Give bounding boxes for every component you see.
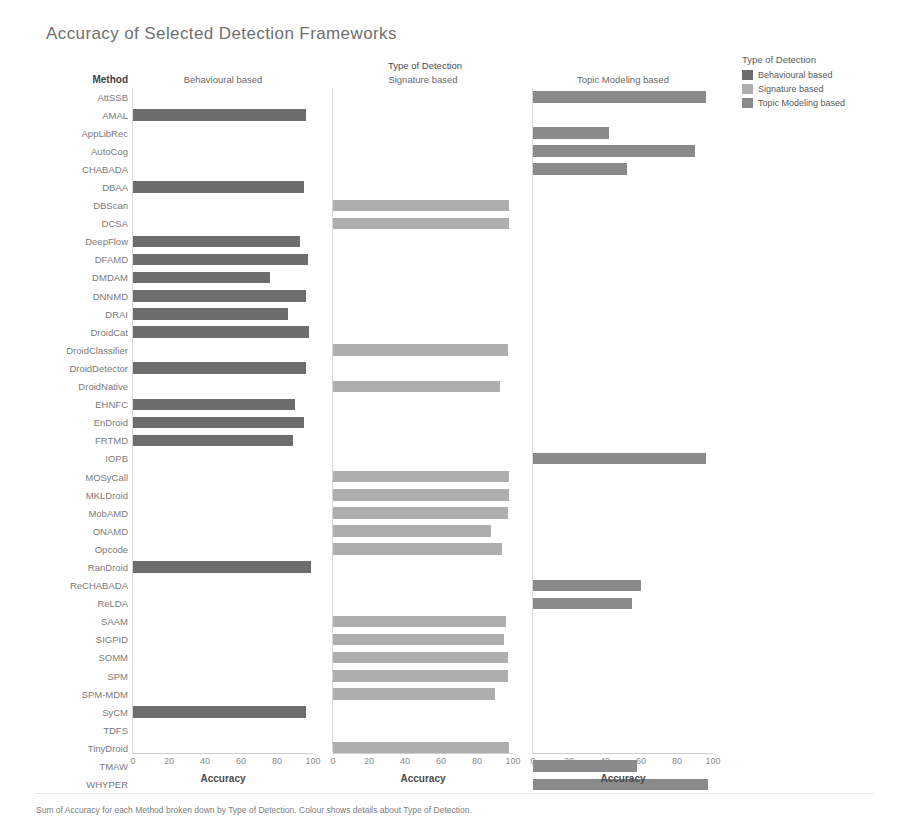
panel-1-cell xyxy=(333,649,513,667)
panel-1-cell xyxy=(333,595,513,613)
bar-dcsa-1[interactable] xyxy=(333,218,509,230)
panel-2-cell xyxy=(533,142,713,160)
panel-0-cell xyxy=(133,359,313,377)
axis-tick-40: 40 xyxy=(400,756,410,766)
bar-mkldroid-1[interactable] xyxy=(333,489,509,501)
chart-row: MOSyCall xyxy=(0,468,730,486)
chart-row: DroidCat xyxy=(0,323,730,341)
panel-2-cell xyxy=(533,703,713,721)
panel-1-cell xyxy=(333,269,513,287)
panel-2-cell xyxy=(533,305,713,323)
axis-title-signature: Accuracy xyxy=(333,773,513,784)
bar-droidclassifier-1[interactable] xyxy=(333,344,508,356)
bar-drai-0[interactable] xyxy=(133,308,288,320)
bar-endroid-0[interactable] xyxy=(133,417,304,429)
bar-deepflow-0[interactable] xyxy=(133,236,300,248)
column-group-title: Type of Detection xyxy=(325,60,525,71)
bar-droiddetector-0[interactable] xyxy=(133,362,306,374)
bar-rechabada-2[interactable] xyxy=(533,580,641,592)
row-label-sigpid: SIGPID xyxy=(20,631,128,649)
axis-line xyxy=(133,753,313,754)
bar-onamd-1[interactable] xyxy=(333,525,491,537)
bar-iopb-2[interactable] xyxy=(533,453,706,465)
axis-tick-100: 100 xyxy=(705,756,720,766)
chart-row: ReLDA xyxy=(0,595,730,613)
bar-chabada-2[interactable] xyxy=(533,163,627,175)
bar-mobamd-1[interactable] xyxy=(333,507,508,519)
panel-0-cell xyxy=(133,305,313,323)
panel-0-cell xyxy=(133,486,313,504)
bar-sycm-0[interactable] xyxy=(133,706,306,718)
bar-mosycall-1[interactable] xyxy=(333,471,509,483)
chart-row: MKLDroid xyxy=(0,486,730,504)
panel-0-cell xyxy=(133,577,313,595)
bar-dmdam-0[interactable] xyxy=(133,272,270,284)
bar-dfamd-0[interactable] xyxy=(133,254,308,266)
panel-0-cell xyxy=(133,450,313,468)
bar-somm-1[interactable] xyxy=(333,652,508,664)
chart-row: DNNMD xyxy=(0,287,730,305)
panel-1-cell xyxy=(333,378,513,396)
row-label-droidnative: DroidNative xyxy=(20,378,128,396)
row-label-mkldroid: MKLDroid xyxy=(20,486,128,504)
chart-row: ONAMD xyxy=(0,522,730,540)
row-label-droiddetector: DroidDetector xyxy=(20,359,128,377)
panel-1-cell xyxy=(333,486,513,504)
bar-ehnfc-0[interactable] xyxy=(133,399,295,411)
panel-1-cell xyxy=(333,287,513,305)
row-label-saam: SAAM xyxy=(20,613,128,631)
panel-0-cell xyxy=(133,414,313,432)
bar-attssb-2[interactable] xyxy=(533,91,706,103)
panel-1-cell xyxy=(333,504,513,522)
panel-1-cell xyxy=(333,124,513,142)
axis-tick-20: 20 xyxy=(164,756,174,766)
chart-row: SIGPID xyxy=(0,631,730,649)
bar-randroid-0[interactable] xyxy=(133,561,311,573)
chart-row: Opcode xyxy=(0,540,730,558)
panel-0-cell xyxy=(133,269,313,287)
bar-applibrec-2[interactable] xyxy=(533,127,609,139)
legend-item-behavioural[interactable]: Behavioural based xyxy=(742,70,902,80)
panel-2-cell xyxy=(533,197,713,215)
row-label-dnnmd: DNNMD xyxy=(20,287,128,305)
bar-dnnmd-0[interactable] xyxy=(133,290,306,302)
panel-2-cell xyxy=(533,486,713,504)
bar-droidcat-0[interactable] xyxy=(133,326,309,338)
bar-spm-1[interactable] xyxy=(333,670,508,682)
row-label-spm: SPM xyxy=(20,667,128,685)
bar-droidnative-1[interactable] xyxy=(333,381,500,393)
row-label-somm: SOMM xyxy=(20,649,128,667)
legend-item-signature[interactable]: Signature based xyxy=(742,84,902,94)
row-label-mobamd: MobAMD xyxy=(20,504,128,522)
panel-1-cell xyxy=(333,215,513,233)
legend-swatch-topic-modeling xyxy=(742,98,753,108)
bar-dbaa-0[interactable] xyxy=(133,181,304,193)
panel-2-cell xyxy=(533,378,713,396)
panel-2-cell xyxy=(533,613,713,631)
panel-2-cell xyxy=(533,124,713,142)
chart-row: RanDroid xyxy=(0,558,730,576)
panel-1-cell xyxy=(333,142,513,160)
panel-1-cell xyxy=(333,323,513,341)
bar-spm-mdm-1[interactable] xyxy=(333,688,495,700)
chart-row: DBScan xyxy=(0,197,730,215)
bar-autocog-2[interactable] xyxy=(533,145,695,157)
axis-title-behavioural: Accuracy xyxy=(133,773,313,784)
axis-title-topic-modeling: Accuracy xyxy=(533,773,713,784)
row-label-dbaa: DBAA xyxy=(20,178,128,196)
legend-item-topic-modeling[interactable]: Topic Modeling based xyxy=(742,98,902,108)
bar-amal-0[interactable] xyxy=(133,109,306,121)
panel-1-cell xyxy=(333,178,513,196)
legend-title: Type of Detection xyxy=(742,54,902,65)
bar-sigpid-1[interactable] xyxy=(333,634,504,646)
bar-frtmd-0[interactable] xyxy=(133,435,293,447)
row-label-iopb: IOPB xyxy=(20,450,128,468)
bar-relda-2[interactable] xyxy=(533,598,632,610)
bar-dbscan-1[interactable] xyxy=(333,200,509,212)
panel-2-cell xyxy=(533,667,713,685)
bar-opcode-1[interactable] xyxy=(333,543,502,555)
bar-saam-1[interactable] xyxy=(333,616,506,628)
axis-tick-100: 100 xyxy=(505,756,520,766)
chart-row: DMDAM xyxy=(0,269,730,287)
panel-0-cell xyxy=(133,160,313,178)
